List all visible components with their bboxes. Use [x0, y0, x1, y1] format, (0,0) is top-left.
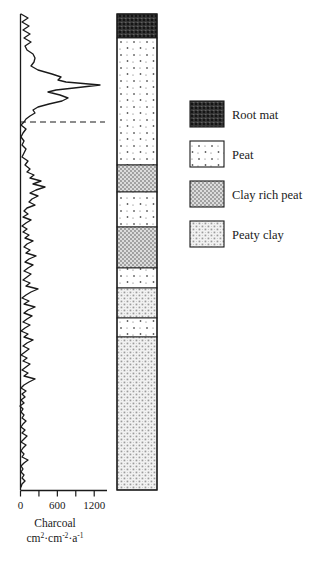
lithology-segment-peat — [117, 38, 157, 165]
lithology-segment-peat — [117, 192, 157, 227]
legend-swatch-peat — [190, 141, 224, 167]
x-axis-units: cm2·cm-2·a-1 — [26, 531, 83, 544]
lithology-segment-root-mat — [117, 14, 157, 38]
lithology-segment-peaty-clay — [117, 288, 157, 318]
charcoal-stratigraphy-figure: 06001200 Charcoal cm2·cm-2·a-1 Root matP… — [0, 0, 326, 566]
lithology-segment-peaty-clay — [117, 337, 157, 490]
legend-swatch-root-mat — [190, 101, 224, 127]
x-axis-tick-label: 600 — [49, 499, 66, 511]
lithology-segment-peat — [117, 268, 157, 288]
units-part-2: ·cm — [44, 532, 62, 544]
x-axis-tick-label: 1200 — [83, 499, 106, 511]
lithology-segment-peat — [117, 318, 157, 337]
x-axis-title: Charcoal — [34, 517, 76, 529]
lithology-column — [117, 14, 157, 490]
legend-swatch-clay-rich-peat — [190, 181, 224, 207]
legend-label-peat: Peat — [232, 148, 254, 162]
legend-label-root-mat: Root mat — [232, 108, 279, 122]
lithology-segment-clay-rich-peat — [117, 165, 157, 192]
units-part-3: ·a — [68, 532, 77, 544]
figure-background — [0, 0, 326, 566]
x-axis-tick-label: 0 — [18, 499, 24, 511]
legend-label-clay-rich-peat: Clay rich peat — [232, 188, 303, 202]
lithology-segment-clay-rich-peat — [117, 227, 157, 268]
legend-label-peaty-clay: Peaty clay — [232, 228, 284, 242]
units-part-1: cm — [26, 532, 40, 544]
units-sup-3: -1 — [77, 531, 83, 540]
legend-swatch-peaty-clay — [190, 221, 224, 247]
